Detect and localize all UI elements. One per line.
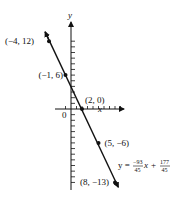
equation-lhs: y = xyxy=(118,160,130,170)
point-label: (8, −13) xyxy=(80,177,109,187)
equation-var: x xyxy=(143,160,148,170)
data-point xyxy=(47,39,51,43)
equation-label: y = −93 45 x + 177 45 xyxy=(118,159,170,173)
point-label: (−1, 6) xyxy=(39,70,64,80)
scatter-chart: (−4, 12)(−1, 6)(2, 0)(5, −6)(8, −13) x y… xyxy=(0,0,185,209)
data-point xyxy=(64,73,68,77)
equation-slope-denominator: 45 xyxy=(135,167,141,173)
point-label: (5, −6) xyxy=(105,138,130,148)
equation-intercept-numerator: 177 xyxy=(160,159,169,165)
origin-label: 0 xyxy=(62,110,67,120)
fit-line-arrow-start xyxy=(45,32,48,39)
data-point xyxy=(97,141,101,145)
y-axis-label: y xyxy=(67,10,72,20)
equation-plus: + xyxy=(151,160,156,170)
point-label: (−4, 12) xyxy=(5,36,34,46)
equation-slope-numerator: −93 xyxy=(133,159,142,165)
data-point xyxy=(113,180,117,184)
equation-intercept-denominator: 45 xyxy=(162,167,168,173)
data-point xyxy=(80,107,84,111)
x-axis-label: x xyxy=(97,104,102,114)
